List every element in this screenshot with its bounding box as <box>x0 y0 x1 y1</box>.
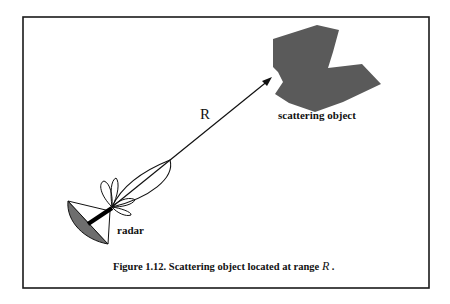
side-lobe <box>112 207 131 216</box>
object-label: scattering object <box>278 109 356 121</box>
figure-diagram: R scattering object radar Figure 1.12. S… <box>0 0 450 304</box>
caption-suffix: . <box>329 261 335 272</box>
range-arrow-line <box>112 80 269 207</box>
figure-frame <box>23 17 429 288</box>
figure-caption: Figure 1.12. Scattering object located a… <box>113 259 335 273</box>
caption-prefix: Figure 1.12. Scattering object located a… <box>113 261 322 272</box>
scattering-object-shape <box>273 25 381 112</box>
range-label: R <box>200 106 210 122</box>
radar-label: radar <box>117 224 144 236</box>
